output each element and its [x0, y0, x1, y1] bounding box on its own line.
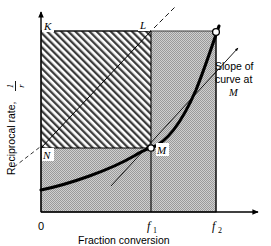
xtick-label-origin: 0 [38, 220, 44, 232]
point-label-n: N [42, 148, 54, 161]
marker-point-m [148, 145, 154, 151]
xtick-label-f2: f 2 [212, 219, 222, 235]
xtick-label-f2-sub: 2 [218, 226, 222, 235]
xtick-label-f1-base: f [147, 219, 152, 233]
y-axis-fraction: 1 r [5, 81, 26, 91]
y-axis-label: Reciprocal rate, [5, 101, 17, 175]
slope-note-line1: Slope of [215, 60, 254, 72]
y-axis-fraction-denominator: r [16, 84, 26, 88]
slope-note-line2: curve at [215, 73, 252, 85]
figure-container: K L N M Slope of curve at M 0 f 1 f 2 Fr… [0, 0, 271, 246]
point-label-m-text: M [156, 144, 167, 156]
x-axis-label: Fraction conversion [78, 234, 170, 246]
xtick-label-f1: f 1 [147, 219, 157, 235]
xtick-label-f2-base: f [212, 219, 217, 233]
leader-line-to-n [14, 147, 40, 167]
point-label-l: L [138, 19, 150, 31]
slope-note-line3: M [228, 87, 239, 98]
point-label-k-text: K [43, 20, 52, 32]
marker-point-f2 [213, 29, 220, 36]
point-label-k: K [42, 20, 54, 32]
point-label-n-text: N [42, 149, 51, 161]
y-axis-fraction-numerator: 1 [5, 84, 15, 89]
chord-n-to-l-extension [154, 6, 176, 28]
point-label-l-text: L [139, 19, 146, 31]
point-label-m: M [156, 143, 169, 156]
chart-svg: K L N M Slope of curve at M 0 f 1 f 2 Fr… [0, 0, 271, 246]
